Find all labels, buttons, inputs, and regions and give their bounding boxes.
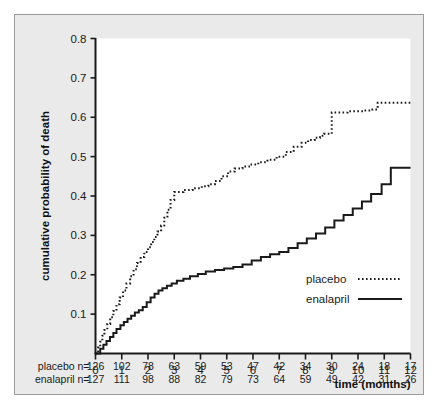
risk-table-row-label: placebo n= <box>38 360 90 372</box>
risk-table-cell: 88 <box>168 373 180 385</box>
y-axis-tick-label: 0.4 <box>71 190 88 202</box>
y-axis-tick-label: 0.6 <box>71 111 87 123</box>
risk-table-cell: 59 <box>300 373 312 385</box>
risk-table-cell: 49 <box>326 373 338 385</box>
risk-table-cell: 111 <box>114 373 130 385</box>
risk-table-cell: 17 <box>405 360 417 372</box>
risk-table-cell: 78 <box>142 360 154 372</box>
risk-table-cell: 31 <box>378 373 390 385</box>
risk-table-cell: 127 <box>87 373 105 385</box>
risk-table-cell: 24 <box>352 360 364 372</box>
risk-table-cell: 82 <box>195 373 207 385</box>
risk-table-cell: 98 <box>142 373 154 385</box>
y-axis-tick-label: 0.7 <box>71 72 87 84</box>
risk-table-cell: 64 <box>273 373 285 385</box>
y-axis-tick-label: 0.3 <box>71 229 87 241</box>
x-axis-title: time (months) <box>334 378 410 390</box>
y-axis-tick-label: 0.1 <box>71 308 87 320</box>
y-axis-tick-label: 0.8 <box>71 33 87 45</box>
risk-table-cell: 63 <box>168 360 180 372</box>
kaplan-meier-chart: 0.10.20.30.40.50.60.70.80123456789101112… <box>0 0 442 411</box>
risk-table-row-label: enalapril n= <box>35 373 90 385</box>
y-axis-tick-label: 0.2 <box>71 269 87 281</box>
y-axis-title: cumulative probability of death <box>39 111 51 281</box>
y-axis-tick-label: 0.5 <box>71 151 87 163</box>
risk-table-cell: 73 <box>247 373 259 385</box>
risk-table-cell: 42 <box>352 373 364 385</box>
risk-table-cell: 79 <box>221 373 233 385</box>
figure-container: 0.10.20.30.40.50.60.70.80123456789101112… <box>0 0 442 411</box>
risk-table-cell: 59 <box>195 360 207 372</box>
risk-table-cell: 18 <box>378 360 390 372</box>
legend-label-placebo: placebo <box>306 273 346 285</box>
risk-table-cell: 102 <box>113 360 131 372</box>
risk-table-cell: 42 <box>273 360 285 372</box>
risk-table-cell: 126 <box>87 360 105 372</box>
risk-table-cell: 26 <box>405 373 417 385</box>
risk-table-cell: 34 <box>300 360 312 372</box>
legend-label-enalapril: enalapril <box>306 293 349 305</box>
risk-table-cell: 53 <box>221 360 233 372</box>
risk-table-cell: 47 <box>247 360 259 372</box>
risk-table-cell: 30 <box>326 360 338 372</box>
